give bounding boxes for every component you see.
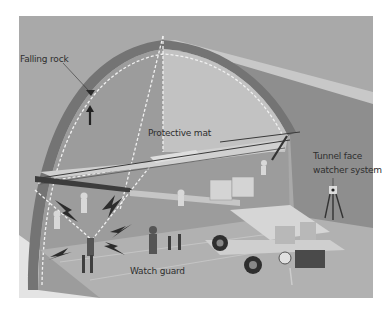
label-watcher-system: watcher system xyxy=(313,165,382,175)
label-protective-mat: Protective mat xyxy=(148,128,211,138)
label-falling-rock: Falling rock xyxy=(20,54,68,64)
label-watch-guard: Watch guard xyxy=(130,266,185,276)
label-tunnel-face: Tunnel face xyxy=(313,151,362,161)
